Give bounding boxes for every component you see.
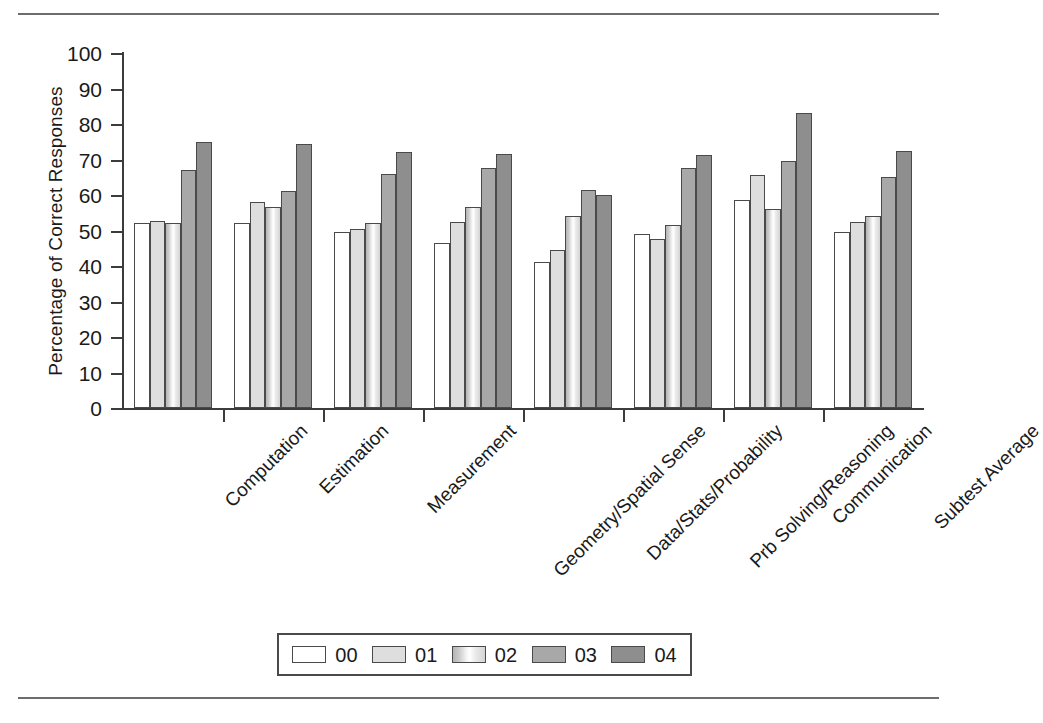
- page-rule-bottom: [18, 697, 939, 699]
- x-axis-category-label: Geometry/Spatial Sense: [549, 420, 710, 581]
- bar-group: [134, 53, 212, 408]
- x-axis-tick: [323, 409, 325, 422]
- bar: [296, 144, 312, 408]
- legend-item[interactable]: 04: [611, 645, 676, 665]
- legend-swatch: [452, 646, 486, 663]
- y-axis-tick-label: 60: [79, 184, 102, 208]
- bar: [134, 223, 150, 408]
- x-axis-category-label: Computation: [221, 420, 313, 512]
- y-axis-tick: 40: [111, 266, 123, 268]
- bar: [834, 232, 850, 408]
- legend-item[interactable]: 01: [372, 645, 437, 665]
- bar: [896, 151, 912, 408]
- bar: [381, 174, 397, 408]
- bar: [350, 229, 366, 408]
- bar: [850, 222, 866, 408]
- x-axis-tick: [623, 409, 625, 422]
- page-rule-top: [18, 13, 939, 15]
- bar: [281, 191, 297, 408]
- bar: [865, 216, 881, 408]
- bar: [450, 222, 466, 408]
- x-axis-category-label: Estimation: [315, 420, 393, 498]
- bar: [365, 223, 381, 408]
- y-axis-tick: 50: [111, 231, 123, 233]
- bar: [681, 168, 697, 408]
- bar: [750, 175, 766, 408]
- bar: [165, 223, 181, 408]
- bar-group: [834, 53, 912, 408]
- legend-swatch: [292, 646, 326, 663]
- bar: [465, 207, 481, 408]
- bar-chart-figure: Percentage of Correct Responses 10090807…: [0, 20, 961, 692]
- y-axis-tick-label: 30: [79, 291, 102, 315]
- y-axis-tick-label: 0: [90, 397, 102, 421]
- y-axis-tick: 0: [111, 408, 123, 410]
- legend-label: 01: [415, 645, 437, 665]
- y-axis-tick: 10: [111, 373, 123, 375]
- legend-label: 00: [335, 645, 357, 665]
- y-axis-tick-label: 80: [79, 113, 102, 137]
- bar: [496, 154, 512, 408]
- x-axis-tick: [723, 409, 725, 422]
- bar-group: [534, 53, 612, 408]
- y-axis-tick-label: 40: [79, 255, 102, 279]
- bar-group: [334, 53, 412, 408]
- bar: [634, 234, 650, 408]
- legend-item[interactable]: 02: [452, 645, 517, 665]
- bar: [181, 170, 197, 408]
- y-axis-tick: 100: [111, 53, 123, 55]
- bar: [234, 223, 250, 408]
- bar: [250, 202, 266, 408]
- y-axis-tick: 70: [111, 160, 123, 162]
- legend-item[interactable]: 00: [292, 645, 357, 665]
- plot-area: 1009080706050403020100: [123, 53, 923, 408]
- y-axis-tick-label: 20: [79, 326, 102, 350]
- y-axis-tick-label: 90: [79, 78, 102, 102]
- x-axis-category-label: Measurement: [423, 420, 521, 518]
- bar: [696, 155, 712, 408]
- bar: [781, 161, 797, 408]
- y-axis-tick-label: 100: [67, 42, 102, 66]
- chart-legend: 0001020304: [277, 633, 692, 676]
- bar: [796, 113, 812, 408]
- legend-swatch: [611, 646, 645, 663]
- y-axis-tick-label: 50: [79, 220, 102, 244]
- bar-group: [734, 53, 812, 408]
- legend-swatch: [372, 646, 406, 663]
- y-axis-tick: 80: [111, 124, 123, 126]
- x-axis-tick: [423, 409, 425, 422]
- x-axis-tick: [523, 409, 525, 422]
- bar: [434, 243, 450, 408]
- x-axis-tick: [223, 409, 225, 422]
- bar-group: [434, 53, 512, 408]
- bar: [596, 195, 612, 408]
- bar: [334, 232, 350, 408]
- y-axis-tick: 30: [111, 302, 123, 304]
- y-axis-tick: 90: [111, 89, 123, 91]
- bar: [765, 209, 781, 408]
- legend-label: 03: [575, 645, 597, 665]
- x-axis-category-label: Subtest Average: [930, 420, 1043, 534]
- bar-group: [634, 53, 712, 408]
- legend-item[interactable]: 03: [532, 645, 597, 665]
- bar: [534, 262, 550, 408]
- y-axis-tick: 60: [111, 195, 123, 197]
- bar-group: [234, 53, 312, 408]
- y-axis-tick-label: 70: [79, 149, 102, 173]
- bar: [650, 239, 666, 408]
- bar: [565, 216, 581, 408]
- bar: [481, 168, 497, 408]
- bar: [581, 190, 597, 408]
- legend-label: 02: [495, 645, 517, 665]
- y-axis-tick-label: 10: [79, 362, 102, 386]
- bar: [196, 142, 212, 408]
- y-axis-tick: 20: [111, 337, 123, 339]
- x-axis-tick: [823, 409, 825, 422]
- y-axis-title: Percentage of Correct Responses: [45, 61, 67, 401]
- bar: [734, 200, 750, 408]
- legend-label: 04: [654, 645, 676, 665]
- bar: [665, 225, 681, 408]
- legend-swatch: [532, 646, 566, 663]
- bar: [265, 207, 281, 408]
- bar: [150, 221, 166, 408]
